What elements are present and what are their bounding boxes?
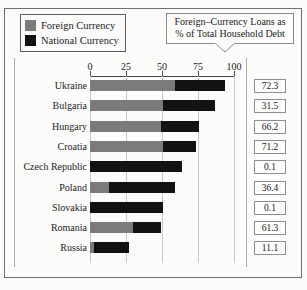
category-label: Romania: [51, 223, 87, 233]
category-label: Croatia: [58, 142, 87, 152]
bar-segment: [161, 121, 200, 132]
foreign-share-value-box: 0.1: [254, 160, 286, 174]
category-label: Slovakia: [52, 203, 87, 213]
bar-segment: [133, 222, 160, 233]
x-gridline: [234, 76, 235, 263]
bar-segment: [90, 121, 161, 132]
bar-segment: [90, 222, 133, 233]
bar-segment: [90, 100, 163, 111]
foreign-share-value-box: 66.2: [254, 120, 286, 134]
bar-segment: [90, 202, 163, 213]
bar-segment: [90, 161, 182, 172]
bar-segment: [94, 242, 129, 253]
foreign-share-value-box: 0.1: [254, 201, 286, 215]
foreign-share-value-box: 11.1: [254, 241, 286, 255]
category-label: Poland: [59, 183, 87, 193]
foreign-share-value-box: 72.3: [254, 79, 286, 93]
category-label: Bulgaria: [53, 101, 87, 111]
category-axis-rule: [14, 58, 15, 267]
foreign-share-value-box: 31.5: [254, 99, 286, 113]
value-column-divider: [246, 58, 247, 267]
bar-segment: [163, 141, 196, 152]
foreign-share-value-box: 71.2: [254, 140, 286, 154]
category-label: Ukraine: [55, 81, 87, 91]
chart-figure: Foreign Currency National Currency Forei…: [0, 0, 307, 290]
category-label: Russia: [60, 243, 87, 253]
plot-area: 0255075100Ukraine72.3Bulgaria31.5Hungary…: [0, 0, 307, 290]
category-label: Czech Republic: [23, 162, 87, 172]
foreign-share-value-box: 61.3: [254, 221, 286, 235]
bar-segment: [175, 80, 225, 91]
bar-segment: [90, 80, 175, 91]
bar-segment: [109, 182, 175, 193]
bar-segment: [90, 141, 163, 152]
bar-segment: [163, 100, 215, 111]
bar-segment: [90, 182, 109, 193]
foreign-share-value-box: 36.4: [254, 181, 286, 195]
category-label: Hungary: [52, 122, 87, 132]
